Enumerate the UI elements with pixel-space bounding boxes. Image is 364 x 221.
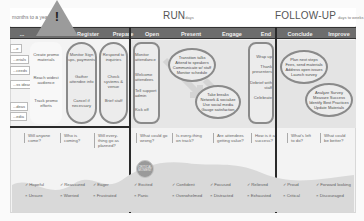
register-item: Monitor Sign ups, payments bbox=[67, 52, 96, 62]
plan-item: ...deas bbox=[10, 102, 28, 111]
stage-plan: ... bbox=[10, 28, 34, 40]
promote-item: Reach widest audience bbox=[32, 75, 60, 85]
plan-item: ...e bbox=[10, 44, 22, 53]
register-item: Gather attendee info bbox=[67, 74, 96, 84]
stage-open: Open bbox=[140, 28, 164, 40]
stage-end: End bbox=[258, 28, 274, 40]
question-text: Will every-thing go as planned? bbox=[94, 133, 124, 148]
emotion-positive: ✓ Forward looking bbox=[316, 182, 351, 187]
stage-prepare: Prepare bbox=[106, 28, 140, 40]
open-item: Monitor attendance bbox=[135, 52, 158, 62]
improve-oval: Analyze Survey Measure Success Identify … bbox=[305, 83, 353, 117]
stage-improve: Improve bbox=[322, 28, 356, 40]
plan-item: ...edia bbox=[10, 112, 27, 121]
emotion-positive: ✓ Relieved bbox=[247, 182, 268, 187]
open-item: Welcome attendees bbox=[135, 72, 158, 82]
question-text: Will anyone come? bbox=[24, 133, 56, 143]
question-text: What could go wrong? bbox=[136, 133, 168, 143]
question-text: How is it a success? bbox=[251, 133, 275, 143]
emotion-negative: × Panic bbox=[134, 193, 148, 198]
emotion-negative: × Overwhelmed bbox=[172, 193, 202, 198]
question-text: Are attendees getting value? bbox=[213, 133, 245, 143]
end-item: Thank presenters bbox=[249, 64, 272, 74]
emotion-negative: × Worried bbox=[60, 193, 79, 198]
emotion-negative: × Distracted bbox=[210, 193, 233, 198]
prepare-item: Brief staff bbox=[100, 98, 127, 103]
emotion-negative: × Critical bbox=[283, 193, 300, 198]
emotion-negative: × Frustrated bbox=[93, 193, 116, 198]
question-text: Who is coming? bbox=[60, 133, 90, 143]
prepare-item: Check systems & venue bbox=[100, 74, 127, 89]
emotion-negative: × Discouraged bbox=[316, 193, 344, 198]
emotion-positive: ✓ Hopeful bbox=[25, 182, 44, 187]
exclamation-icon: ! bbox=[54, 9, 60, 24]
question-text: Is every-thing on track? bbox=[172, 133, 202, 143]
critical-moment-badge: CRITICAL MOMENT bbox=[136, 160, 154, 178]
promote-item: Create promo materials bbox=[32, 52, 60, 62]
followup-phase-label: FOLLOW-UPdays to weeks bbox=[275, 10, 363, 21]
stage-conclude: Conclude bbox=[282, 28, 318, 40]
present-oval: Transition talks Attend to speakers Comm… bbox=[168, 48, 216, 82]
emotion-negative: × Exhausted bbox=[247, 193, 271, 198]
engage-oval: Take breaks Network & socialize Use soci… bbox=[195, 85, 241, 119]
question-text: What could be better? bbox=[320, 133, 350, 143]
emotion-positive: ✓ Confident bbox=[172, 182, 195, 187]
stage-present: Present bbox=[174, 28, 208, 40]
open-item: Tell support admin bbox=[135, 88, 158, 98]
stage-engage: Engage bbox=[215, 28, 249, 40]
emotion-positive: ✓ Excited bbox=[134, 182, 152, 187]
emotion-positive: ✓ Proud bbox=[283, 182, 299, 187]
emotion-positive: ✓ Reassured bbox=[60, 182, 85, 187]
plan-item: ...erials bbox=[10, 55, 29, 64]
emotion-positive: ✓ Focused bbox=[210, 182, 231, 187]
run-phase-label: RUNdays bbox=[163, 10, 194, 21]
plan-item: ...ceeds bbox=[10, 66, 30, 75]
emotion-negative: × Unsure bbox=[25, 193, 43, 198]
question-text: What's left to do? bbox=[287, 133, 315, 143]
prepare-item: Respond to inquiries bbox=[100, 52, 127, 62]
register-item: Cancel if necessary bbox=[67, 98, 96, 108]
end-item: Celebrate bbox=[249, 95, 272, 100]
emotion-positive: ✓ Eager bbox=[93, 182, 109, 187]
open-item: Kick off bbox=[135, 107, 158, 112]
end-item: Wrap up bbox=[249, 54, 272, 59]
conclude-oval: Plan next steps Fees, send materials Add… bbox=[280, 50, 328, 84]
promote-item: Track promo efforts bbox=[32, 98, 60, 108]
end-item: Debrief with staff bbox=[249, 80, 272, 90]
